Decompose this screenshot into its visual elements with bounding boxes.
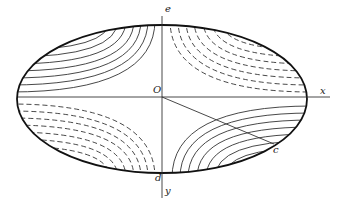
label-origin: O (153, 84, 161, 95)
ellipse-diagram: e O x d y c (0, 0, 340, 209)
label-d: d (155, 172, 161, 183)
upper-left-solid-curves (10, 20, 155, 92)
label-x: x (320, 85, 326, 96)
lower-left-dashed-curves (10, 104, 155, 178)
radial-line-oc (162, 97, 274, 144)
label-e: e (165, 3, 171, 14)
lower-right-solid-curves (172, 106, 312, 178)
upper-right-dashed-curves (170, 20, 312, 92)
label-y: y (164, 185, 171, 196)
label-c: c (273, 144, 279, 155)
